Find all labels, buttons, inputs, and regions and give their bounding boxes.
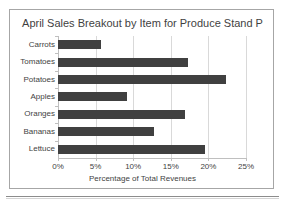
bar-row xyxy=(58,123,246,140)
bar-bananas xyxy=(58,127,154,136)
chart-figure-box: April Sales Breakout by Item for Produce… xyxy=(9,9,274,189)
page-divider-rule xyxy=(6,196,279,197)
x-tick-label-25%: 25% xyxy=(231,162,261,171)
x-tick xyxy=(58,158,59,161)
x-axis-title: Percentage of Total Revenues xyxy=(10,174,275,183)
y-label-carrots: Carrots xyxy=(9,40,55,49)
x-tick-label-0%: 0% xyxy=(43,162,73,171)
bar-row xyxy=(58,141,246,158)
bar-carrots xyxy=(58,40,101,49)
bar-row xyxy=(58,36,246,53)
y-axis-category-labels: CarrotsTomatoesPotatoesApplesOrangesBana… xyxy=(10,36,55,158)
y-tick xyxy=(55,36,58,37)
x-tick xyxy=(246,158,247,161)
bar-row xyxy=(58,88,246,105)
y-label-apples: Apples xyxy=(9,92,55,101)
x-axis-line xyxy=(58,158,246,159)
x-tick xyxy=(171,158,172,161)
x-tick-label-10%: 10% xyxy=(118,162,148,171)
bar-row xyxy=(58,53,246,70)
y-tick xyxy=(55,123,58,124)
y-label-bananas: Bananas xyxy=(9,127,55,136)
x-tick xyxy=(208,158,209,161)
x-tick-label-5%: 5% xyxy=(81,162,111,171)
bar-lettuce xyxy=(58,145,205,154)
y-tick xyxy=(55,71,58,72)
page-top-cut-text xyxy=(0,0,285,7)
y-tick xyxy=(55,141,58,142)
bar-apples xyxy=(58,92,127,101)
bar-series xyxy=(58,36,246,158)
bar-row xyxy=(58,106,246,123)
bar-potatoes xyxy=(58,75,226,84)
bar-oranges xyxy=(58,110,185,119)
y-tick xyxy=(55,106,58,107)
x-tick-label-15%: 15% xyxy=(156,162,186,171)
plot-area xyxy=(58,36,246,158)
y-label-tomatoes: Tomatoes xyxy=(9,57,55,66)
gridline-25% xyxy=(246,36,247,158)
bar-tomatoes xyxy=(58,58,188,67)
y-tick xyxy=(55,88,58,89)
bar-row xyxy=(58,71,246,88)
y-label-potatoes: Potatoes xyxy=(9,75,55,84)
x-tick-label-20%: 20% xyxy=(193,162,223,171)
x-tick xyxy=(133,158,134,161)
y-label-oranges: Oranges xyxy=(9,109,55,118)
x-tick xyxy=(96,158,97,161)
chart-title: April Sales Breakout by Item for Produce… xyxy=(10,17,275,29)
y-label-lettuce: Lettuce xyxy=(9,144,55,153)
y-tick xyxy=(55,53,58,54)
page-divider-rule-shadow xyxy=(6,198,279,199)
